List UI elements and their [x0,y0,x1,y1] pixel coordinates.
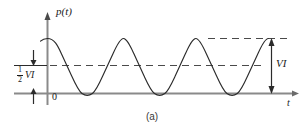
mean-level-arrow-up [31,88,37,104]
mean-level-arrow-down [31,50,37,66]
mean-power-level-units: VI [25,70,34,80]
figure-caption: (a) [0,112,304,122]
amplitude-double-arrow [269,38,275,94]
y-axis [45,12,51,105]
power-waveform-curve [41,39,269,96]
y-axis-label: p(t) [56,6,72,17]
figure-panel-a: p(t) t 0 1 2 VI VI (a) [0,0,304,129]
amplitude-label: VI [276,58,286,69]
origin-label: 0 [52,92,57,102]
fraction-numerator: 1 [17,66,23,74]
x-axis-label: t [287,98,290,108]
mean-power-level-label: 1 2 VI [17,66,34,84]
fraction-denominator: 2 [17,76,23,84]
waveform-plot [0,0,304,129]
one-half-fraction: 1 2 [17,66,23,84]
